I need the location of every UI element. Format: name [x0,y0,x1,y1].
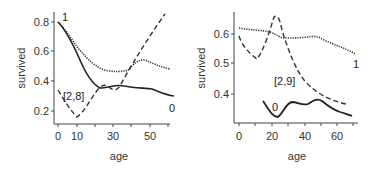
right-panel: 0.6 0.5 0.4 0 20 40 60 age survived 1 [2… [195,12,359,162]
right-x-axis-label: age [288,150,306,162]
right-x-ticks: 0 20 40 60 [236,123,353,142]
x-tick-label: 60 [331,130,343,142]
x-tick-label: 0 [55,130,61,142]
left-x-axis-label: age [110,150,128,162]
right-label-2-9: [2,9] [274,75,295,87]
left-series-1-dotted [58,22,170,72]
y-tick-label: 0.4 [34,75,49,87]
y-tick-label: 0.8 [34,16,49,28]
left-label-0: 0 [169,102,175,114]
right-label-1: 1 [353,58,359,70]
y-tick-label: 0.6 [214,28,229,40]
right-series-2-dashed [239,16,346,104]
right-y-axis-label: survived [195,48,207,89]
x-tick-label: 10 [71,130,83,142]
left-y-axis-label: survived [15,48,27,89]
y-tick-label: 0.4 [214,88,229,100]
y-tick-label: 0.2 [34,105,49,117]
right-series-1-dotted [239,28,355,54]
x-tick-label: 40 [299,130,311,142]
left-series-0-solid [58,22,174,96]
right-label-0: 0 [272,101,278,113]
x-tick-label: 0 [236,130,242,142]
left-x-ticks: 0 10 30 50 [55,124,168,142]
y-tick-label: 0.5 [214,57,229,69]
chart-figure: 0.8 0.6 0.4 0.2 0 10 30 50 age survived … [0,0,373,173]
right-y-ticks: 0.6 0.5 0.4 [214,28,234,100]
x-tick-label: 30 [107,130,119,142]
x-tick-label: 50 [144,130,156,142]
left-label-1: 1 [62,11,68,23]
left-label-2-8: [2,8] [63,90,84,102]
y-tick-label: 0.6 [34,45,49,57]
left-panel: 0.8 0.6 0.4 0.2 0 10 30 50 age survived … [15,11,175,162]
left-y-ticks: 0.8 0.6 0.4 0.2 [34,16,54,117]
x-tick-label: 20 [266,130,278,142]
